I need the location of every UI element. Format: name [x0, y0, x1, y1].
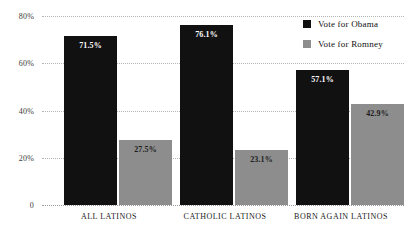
- legend-item-romney: Vote for Romney: [303, 38, 383, 49]
- legend-label-romney: Vote for Romney: [318, 39, 383, 49]
- bar-all-latinos-obama: 71.5%: [64, 36, 117, 205]
- legend-label-obama: Vote for Obama: [318, 19, 378, 29]
- bar-born-again-latinos-obama: 57.1%: [296, 70, 349, 205]
- bar-catholic-latinos-romney: 23.1%: [235, 150, 288, 205]
- bar-value-label: 42.9%: [351, 109, 404, 118]
- bar-catholic-latinos-obama: 76.1%: [180, 25, 233, 205]
- legend-swatch-obama-icon: [303, 20, 311, 28]
- legend-swatch-romney-icon: [303, 40, 311, 48]
- gridline-80: [42, 16, 404, 17]
- y-tick-label-20: 20%: [0, 153, 34, 162]
- y-tick-label-80: 80%: [0, 12, 34, 21]
- bar-all-latinos-romney: 27.5%: [119, 140, 172, 205]
- bar-value-label: 76.1%: [180, 30, 233, 39]
- legend-item-obama: Vote for Obama: [303, 18, 383, 29]
- bar-value-label: 23.1%: [235, 155, 288, 164]
- y-tick-label-60: 60%: [0, 59, 34, 68]
- chart-legend: Vote for Obama Vote for Romney: [303, 18, 383, 49]
- gridline-baseline-0: [42, 205, 404, 206]
- bar-chart: 80% 60% 40% 20% 0 71.5% 27.5% 76.1% 23.1…: [0, 0, 419, 235]
- bar-born-again-latinos-romney: 42.9%: [351, 104, 404, 205]
- bar-value-label: 27.5%: [119, 145, 172, 154]
- y-tick-label-40: 40%: [0, 106, 34, 115]
- bar-value-label: 57.1%: [296, 75, 349, 84]
- x-tick-label-born-again-latinos: BORN AGAIN LATINOS: [266, 212, 416, 221]
- y-tick-label-0: 0: [0, 201, 34, 210]
- bar-value-label: 71.5%: [64, 41, 117, 50]
